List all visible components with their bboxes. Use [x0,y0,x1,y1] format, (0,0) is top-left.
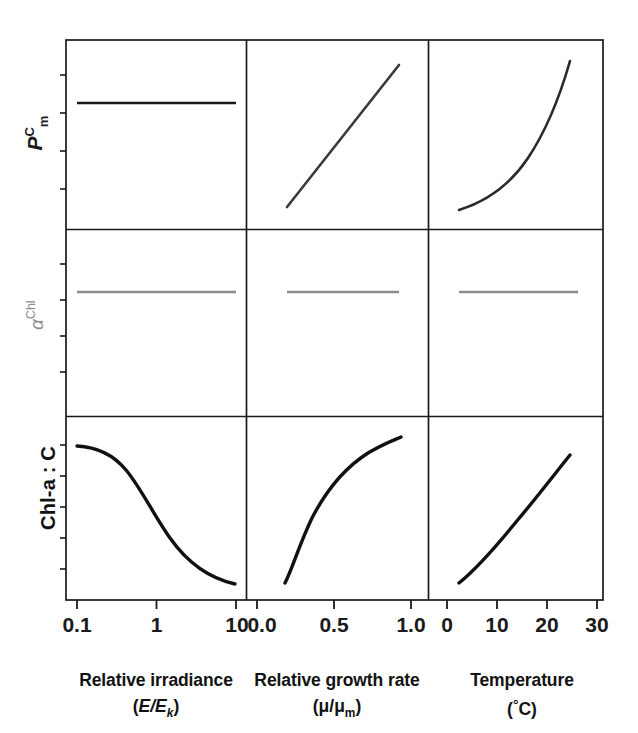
x-axis-ticks-growth-rate [257,600,411,609]
row-label-alpha-text: αChl [26,300,47,330]
tick-irradiance-0: 0.1 [62,613,91,637]
row-label-pm: PCm [16,120,56,180]
tick-irradiance-2: 10 [225,613,248,637]
axis-title-temperature: Temperature (°C) [470,670,574,720]
axis-title-growth-rate-line2: (μ/μm) [254,696,419,720]
row-label-alpha: αChl [16,305,56,365]
curve-pm-temperature [459,61,570,210]
tick-temperature-1: 10 [485,613,508,637]
tick-temperature-2: 20 [535,613,558,637]
curve-chlc-growth-rate [285,437,401,583]
axis-title-growth-rate-line1: Relative growth rate [254,670,419,691]
row-label-chl-c-text: Chl-a : C [37,446,59,530]
curve-chlc-irradiance [77,446,235,584]
x-axis-ticks-temperature [447,600,597,609]
tick-growth-rate-2: 1.0 [396,613,425,637]
axis-title-temperature-line2: (°C) [470,696,574,720]
tick-growth-rate-0: 0.0 [247,613,276,637]
tick-growth-rate-1: 0.5 [319,613,348,637]
x-axis-ticks-irradiance [77,600,236,609]
axis-title-temperature-line1: Temperature [470,670,574,691]
curve-pm-growth-rate [287,65,399,207]
tick-temperature-3: 30 [585,613,608,637]
tick-irradiance-1: 1 [151,613,163,637]
tick-temperature-0: 0 [441,613,453,637]
axis-title-irradiance: Relative irradiance (E/Ek) [79,670,233,720]
curve-chlc-temperature [459,455,570,583]
row-label-chl-c: Chl-a : C [6,478,66,538]
figure-root: PCm αChl Chl-a : C 0.1 1 10 0.0 0.5 1.0 … [0,0,638,733]
axis-title-irradiance-line2: (E/Ek) [79,696,233,720]
axis-title-irradiance-line1: Relative irradiance [79,670,233,691]
axis-title-growth-rate: Relative growth rate (μ/μm) [254,670,419,720]
row-label-pm-text: PCm [23,116,46,151]
